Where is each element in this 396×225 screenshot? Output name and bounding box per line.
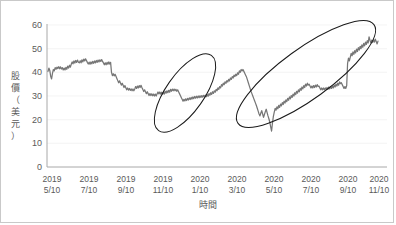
x-tick-day-8: 9/10 [340, 185, 357, 195]
x-tick-day-4: 1/10 [192, 185, 209, 195]
x-tick-year-3: 2019 [154, 174, 173, 184]
x-tick-day-3: 11/10 [153, 185, 174, 195]
y-axis-title-char-0: 股 [11, 71, 20, 81]
x-axis-title: 時間 [199, 200, 217, 210]
y-axis-title-char-3: 美 [11, 106, 20, 117]
y-tick-label-20: 20 [32, 115, 42, 125]
x-tick-day-7: 7/10 [303, 185, 320, 195]
x-tick-year-5: 2020 [228, 174, 247, 184]
y-axis-title-char-1: 價 [11, 83, 20, 93]
axis-lines [47, 24, 387, 167]
y-axis-title: 股 價 （ 美 元 ） [11, 71, 20, 141]
stock-price-line-chart: 60 50 40 30 20 10 0 股 價 （ 美 元 ） 2019 5/1… [1, 1, 395, 224]
x-tick-day-5: 3/10 [229, 185, 246, 195]
first-uptrend-highlight-ellipse [143, 44, 227, 141]
y-axis-title-char-5: ） [11, 131, 20, 141]
y-tick-label-0: 0 [37, 162, 42, 172]
x-tick-day-9: 11/10 [369, 185, 390, 195]
y-tick-label-50: 50 [32, 44, 42, 54]
x-tick-year-7: 2020 [302, 174, 321, 184]
x-tick-year-1: 2019 [80, 174, 99, 184]
price-series-line [48, 37, 378, 131]
y-tick-label-10: 10 [32, 138, 42, 148]
x-tick-year-6: 2020 [265, 174, 284, 184]
x-tick-year-0: 2019 [43, 174, 62, 184]
x-tick-year-2: 2019 [117, 174, 136, 184]
x-tick-day-1: 7/10 [81, 185, 98, 195]
y-axis-title-char-2: （ [11, 95, 20, 105]
y-axis-tick-labels: 60 50 40 30 20 10 0 [32, 20, 42, 172]
x-tick-day-2: 9/10 [118, 185, 135, 195]
y-tick-label-30: 30 [32, 91, 42, 101]
x-tick-year-8: 2020 [339, 174, 358, 184]
x-tick-year-4: 2020 [191, 174, 210, 184]
x-axis-tick-labels: 2019 5/10 2019 7/10 2019 9/10 2019 11/10… [43, 174, 390, 195]
x-tick-day-0: 5/10 [44, 185, 61, 195]
x-tick-year-9: 2020 [370, 174, 389, 184]
chart-frame: 60 50 40 30 20 10 0 股 價 （ 美 元 ） 2019 5/1… [0, 0, 394, 223]
y-axis-title-char-4: 元 [11, 119, 20, 129]
y-tick-label-40: 40 [32, 67, 42, 77]
y-tick-label-60: 60 [32, 20, 42, 30]
x-tick-day-6: 5/10 [266, 185, 283, 195]
